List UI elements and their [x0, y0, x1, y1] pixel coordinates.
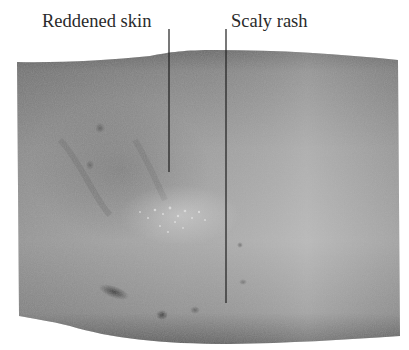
skin-photo [0, 0, 409, 350]
skin-region [0, 40, 409, 350]
skin-photo-figure: Reddened skin Scaly rash [0, 0, 409, 350]
scaly-rash-label: Scaly rash [231, 12, 308, 31]
reddened-skin-label: Reddened skin [42, 12, 151, 31]
